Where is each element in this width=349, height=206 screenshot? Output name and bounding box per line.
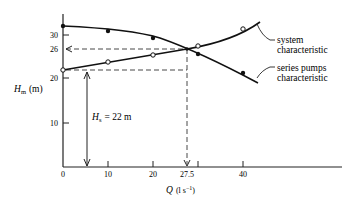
x-tick-40: 40 (239, 170, 247, 179)
hs-label: Hs= 22 m (91, 112, 132, 123)
y-tick-10: 10 (50, 119, 58, 128)
system-curve (63, 22, 260, 70)
system-label-2: characteristic (277, 45, 328, 55)
y-axis-label: Hm(m) (13, 84, 43, 95)
pump-system-diagram: 10 20 26 30 0 10 20 27.5 40 Hm(m) Q(l s−… (0, 0, 349, 206)
system-leader (257, 24, 275, 40)
x-tick-10: 10 (104, 170, 112, 179)
pump-curve (63, 26, 258, 83)
x-tick-0: 0 (61, 170, 65, 179)
x-ticks (108, 161, 243, 167)
x-axis-label: Q(l s−1) (166, 185, 195, 195)
x-tick-27-5: 27.5 (180, 170, 194, 179)
x-tick-20: 20 (149, 170, 157, 179)
y-tick-26: 26 (50, 45, 58, 54)
y-tick-20: 20 (50, 74, 58, 83)
pump-leader (257, 67, 275, 78)
system-label-1: system (277, 35, 304, 45)
operating-point (185, 47, 189, 51)
y-tick-30: 30 (50, 31, 58, 40)
pump-label-2: characteristic (277, 73, 328, 83)
pump-markers (61, 24, 245, 75)
pump-label-1: series pumps (277, 63, 327, 73)
